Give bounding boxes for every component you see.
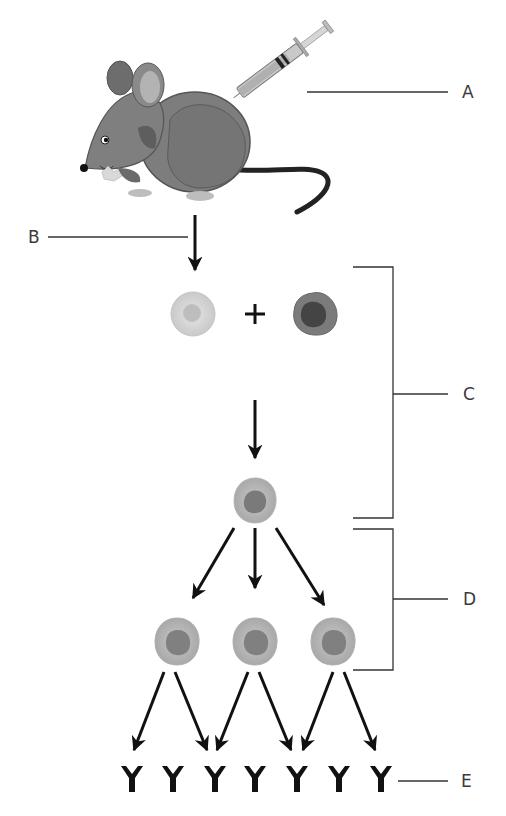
daughter-cell-2 xyxy=(233,618,277,665)
label-d: D xyxy=(463,591,476,608)
antibody-row xyxy=(121,766,392,792)
daughter-cell-3 xyxy=(311,618,355,665)
label-b: B xyxy=(28,229,40,246)
light-cell-icon xyxy=(171,292,215,336)
clonal-expansion-arrows xyxy=(193,528,324,605)
syringe-icon xyxy=(227,17,336,107)
antibody-y-icon xyxy=(328,766,350,792)
label-e: E xyxy=(461,773,472,790)
mouse-illustration xyxy=(80,61,328,212)
label-c: C xyxy=(463,386,475,403)
antibody-y-icon xyxy=(204,766,226,792)
plus-sign xyxy=(245,304,265,324)
dark-cell-icon xyxy=(294,293,337,336)
hybridoma-cell-icon xyxy=(234,478,276,523)
daughter-cell-1 xyxy=(155,618,199,665)
antibody-y-icon xyxy=(162,766,184,792)
label-a: A xyxy=(462,84,474,101)
antibody-y-icon xyxy=(370,766,392,792)
antibody-secretion-arrows xyxy=(134,672,375,750)
bracket-c xyxy=(353,267,448,518)
bracket-d xyxy=(353,529,448,670)
antibody-y-icon xyxy=(121,766,143,792)
hybridoma-diagram: A B C D E xyxy=(0,0,506,816)
antibody-y-icon xyxy=(244,766,266,792)
antibody-y-icon xyxy=(286,766,308,792)
